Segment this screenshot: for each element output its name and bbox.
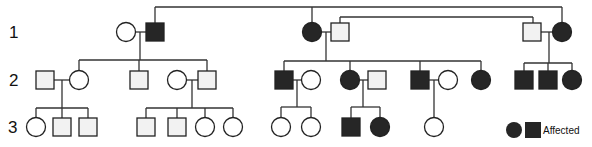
unaffected-male-III-2 <box>53 118 71 136</box>
unaffected-male-II-1 <box>36 71 54 89</box>
generation-label-2: 2 <box>9 71 18 90</box>
legend-affected-female-symbol <box>506 122 522 138</box>
legend-label: Affected <box>543 125 580 136</box>
affected-female-II-15 <box>563 71 582 90</box>
affected-male-I-2 <box>146 23 164 41</box>
legend: Affected <box>506 122 580 138</box>
unaffected-male-II-3 <box>130 71 148 89</box>
pedigree-symbols <box>27 23 582 137</box>
unaffected-female-III-7 <box>224 118 243 137</box>
unaffected-male-III-5 <box>168 118 186 136</box>
unaffected-female-II-2 <box>70 71 89 90</box>
unaffected-male-I-4 <box>331 23 349 41</box>
affected-male-II-14 <box>539 71 557 89</box>
affected-male-III-10 <box>342 118 360 136</box>
unaffected-female-II-4 <box>168 71 187 90</box>
unaffected-female-III-9 <box>302 118 321 137</box>
affected-female-II-12 <box>472 71 491 90</box>
pedigree-svg: 1 2 3 Affected <box>0 0 592 147</box>
unaffected-female-I-1 <box>117 23 136 42</box>
unaffected-female-III-6 <box>196 118 215 137</box>
unaffected-female-III-12 <box>425 118 444 137</box>
unaffected-female-III-8 <box>272 118 291 137</box>
unaffected-male-III-3 <box>79 118 97 136</box>
affected-female-I-6 <box>553 23 572 42</box>
unaffected-male-II-9 <box>368 71 386 89</box>
generation-label-3: 3 <box>8 118 17 137</box>
pedigree-chart: 1 2 3 Affected <box>0 0 592 147</box>
unaffected-male-III-4 <box>137 118 155 136</box>
affected-female-II-8 <box>341 71 360 90</box>
unaffected-female-II-11 <box>439 71 458 90</box>
generation-label-1: 1 <box>9 23 18 42</box>
affected-female-III-11 <box>371 118 390 137</box>
affected-female-I-3 <box>303 23 322 42</box>
unaffected-female-II-7 <box>302 71 321 90</box>
unaffected-male-II-5 <box>198 71 216 89</box>
affected-male-II-10 <box>411 71 429 89</box>
pedigree-lines <box>36 7 572 118</box>
affected-male-II-6 <box>275 71 293 89</box>
legend-affected-male-symbol <box>525 122 541 138</box>
unaffected-male-I-5 <box>523 23 541 41</box>
unaffected-female-III-1 <box>27 118 46 137</box>
affected-male-II-13 <box>515 71 533 89</box>
